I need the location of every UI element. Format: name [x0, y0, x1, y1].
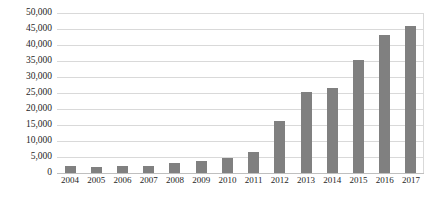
bar-2009: [196, 161, 207, 173]
bar-2010: [222, 158, 233, 173]
bar-2016: [379, 35, 390, 173]
y-tick-label: 35,000: [0, 56, 52, 66]
bar-2008: [169, 163, 180, 173]
bar-2015: [353, 60, 364, 173]
y-tick-label: 25,000: [0, 88, 52, 98]
x-axis-tick-labels: 2004200520062007200820092010201120122013…: [57, 176, 424, 196]
bar-2014: [327, 88, 338, 173]
gridline-0: [57, 173, 424, 174]
bar-2012: [274, 121, 285, 173]
y-tick-label: 30,000: [0, 72, 52, 82]
bar-2017: [405, 26, 416, 173]
bar-2013: [301, 92, 312, 173]
x-tick-label: 2017: [391, 176, 431, 186]
bar-chart: 50,00045,00040,00035,00030,00025,00020,0…: [0, 0, 432, 207]
y-tick-label: 40,000: [0, 40, 52, 50]
bar-2005: [91, 167, 102, 173]
y-tick-label: 20,000: [0, 104, 52, 114]
bar-2011: [248, 152, 259, 173]
bar-2006: [117, 166, 128, 173]
bar-2004: [65, 166, 76, 173]
bar-2007: [143, 166, 154, 173]
y-tick-label: 50,000: [0, 8, 52, 18]
y-tick-label: 10,000: [0, 136, 52, 146]
y-tick-label: 0: [0, 168, 52, 178]
y-tick-label: 15,000: [0, 120, 52, 130]
y-tick-label: 5,000: [0, 152, 52, 162]
y-tick-label: 45,000: [0, 24, 52, 34]
bars-layer: [57, 13, 424, 173]
y-axis-tick-labels: 50,00045,00040,00035,00030,00025,00020,0…: [0, 0, 52, 207]
